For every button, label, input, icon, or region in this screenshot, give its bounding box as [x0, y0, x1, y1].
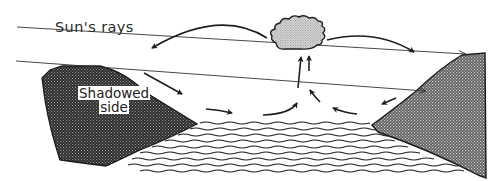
sun-rays-label: Sun's rays — [55, 19, 134, 35]
shadowed-hill — [42, 66, 197, 166]
cumulus-cloud — [271, 16, 325, 49]
arrow-rise-right — [310, 90, 320, 102]
arrow-converge-left — [263, 103, 297, 115]
arrow-converge-right — [333, 108, 357, 114]
arrow-updraft-1 — [298, 57, 301, 88]
arrow-cloud-to-right — [327, 36, 414, 52]
shadowed-label-line1: Shadowed — [78, 86, 150, 100]
sunlit-hill — [372, 53, 486, 178]
arrow-downslope-right — [382, 98, 396, 104]
shadowed-side-label: Shadowed side — [78, 86, 150, 114]
arrow-seaward-left — [206, 109, 232, 113]
shadowed-label-line2: side — [99, 100, 129, 114]
